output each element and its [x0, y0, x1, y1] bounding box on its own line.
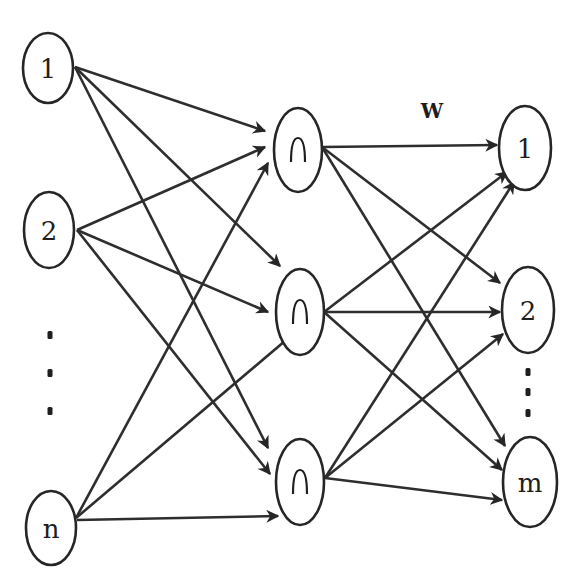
node-label: 2 — [41, 216, 58, 246]
ellipsis-dot — [48, 331, 53, 339]
input-node: n — [26, 491, 76, 565]
output-node: m — [503, 437, 557, 527]
output-node: 1 — [499, 106, 551, 190]
connection-arrow — [77, 230, 268, 312]
hidden-node — [276, 269, 324, 355]
node-circle — [274, 108, 322, 192]
output-node: 2 — [502, 267, 554, 353]
input-node: 1 — [23, 33, 73, 103]
connection-arrow — [324, 312, 502, 470]
network-nodes: 12n12m — [23, 33, 557, 565]
ellipsis-dot — [48, 369, 53, 377]
connection-arrow — [76, 163, 268, 518]
connection-arrow — [322, 145, 497, 147]
ellipsis-dot — [48, 407, 53, 415]
neural-network-diagram: 12n12m W — [0, 0, 575, 579]
connection-arrow — [325, 478, 502, 500]
connection-arrow — [76, 335, 292, 518]
node-circle — [276, 269, 324, 355]
node-label: m — [518, 468, 543, 498]
node-label: 1 — [40, 54, 57, 84]
ellipsis-dot — [526, 368, 531, 376]
connection-arrow — [75, 67, 280, 266]
ellipsis-dot — [526, 388, 531, 396]
connection-arrow — [322, 147, 500, 283]
node-label: 1 — [517, 134, 534, 164]
weight-label: W — [420, 99, 444, 123]
connection-arrow — [325, 182, 514, 478]
input-node: 2 — [24, 192, 74, 268]
node-label: 2 — [520, 296, 537, 326]
connection-arrow — [322, 147, 505, 446]
hidden-node — [274, 108, 322, 192]
connection-arrow — [77, 230, 270, 474]
hidden-node — [276, 439, 324, 525]
ellipsis-dot — [526, 409, 531, 417]
node-circle — [276, 439, 324, 525]
connection-arrow — [75, 67, 268, 448]
node-label: n — [43, 514, 60, 544]
connection-arrow — [77, 516, 278, 520]
connection-arrow — [325, 334, 503, 478]
